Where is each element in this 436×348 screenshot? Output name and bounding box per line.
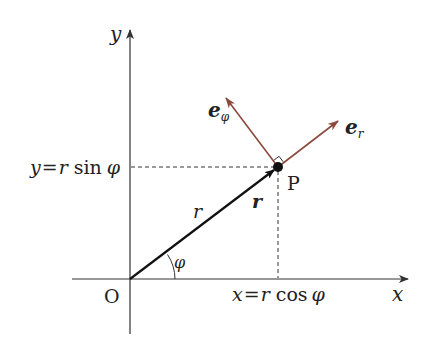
point-p-label: P	[287, 172, 300, 194]
point-p	[273, 162, 283, 172]
polar-coordinates-diagram: y x O P r r φ y=rsinφ x=rcosφ eφ er	[0, 0, 436, 348]
x-equation-label: x=rcosφ	[232, 283, 326, 305]
svg-text:y=rsinφ: y=rsinφ	[29, 156, 121, 178]
e-phi-label: eφ	[208, 98, 230, 124]
right-angle-mark	[274, 156, 284, 162]
e-r-label: er	[345, 115, 365, 141]
unit-vector-e-phi	[226, 98, 278, 167]
unit-vector-e-r	[278, 121, 338, 167]
angle-phi-label: φ	[174, 253, 186, 272]
svg-text:eφ: eφ	[208, 98, 230, 124]
y-equation-label: y=rsinφ	[29, 156, 121, 178]
svg-text:er: er	[345, 115, 365, 141]
position-vector-r	[130, 170, 274, 279]
x-axis-label: x	[392, 282, 403, 306]
y-axis-label: y	[109, 22, 122, 46]
r-magnitude-label: r	[193, 200, 204, 222]
r-vector-label: r	[252, 190, 264, 212]
diagram-canvas: y x O P r r φ y=rsinφ x=rcosφ eφ er	[0, 0, 436, 348]
origin-label: O	[104, 285, 120, 307]
svg-text:x=rcosφ: x=rcosφ	[232, 283, 326, 305]
